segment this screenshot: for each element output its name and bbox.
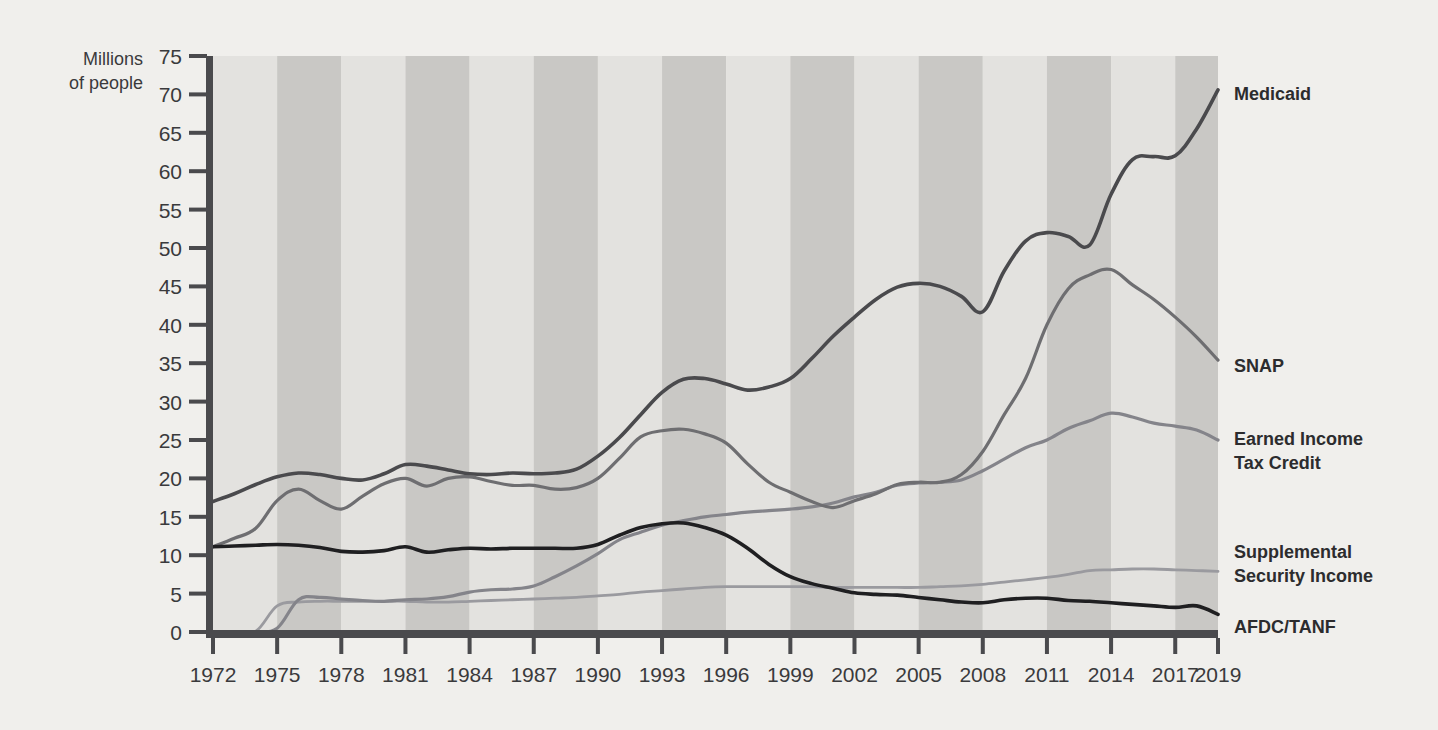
x-tick — [468, 638, 472, 654]
y-tick — [189, 438, 207, 442]
x-tick — [596, 638, 600, 654]
background-band — [405, 56, 469, 632]
y-tick — [189, 92, 207, 96]
x-tick-label: 1987 — [510, 663, 557, 686]
x-tick — [339, 638, 343, 654]
y-tick-label: 70 — [159, 83, 182, 106]
y-tick — [189, 54, 207, 58]
y-tick-label: 35 — [159, 352, 182, 375]
background-band — [790, 56, 854, 632]
y-tick-label: 60 — [159, 160, 182, 183]
y-tick — [189, 169, 207, 173]
y-tick — [189, 553, 207, 557]
x-tick-label: 1999 — [767, 663, 814, 686]
y-tick-label: 30 — [159, 391, 182, 414]
x-tick — [852, 638, 856, 654]
x-tick — [724, 638, 728, 654]
x-tick — [532, 638, 536, 654]
x-tick-label: 1981 — [382, 663, 429, 686]
x-tick-label: 2011 — [1024, 663, 1069, 686]
y-tick-label: 75 — [159, 45, 182, 68]
x-tick-label: 1993 — [639, 663, 686, 686]
y-tick — [189, 476, 207, 480]
background-band — [341, 56, 405, 632]
background-band — [1047, 56, 1111, 632]
y-tick — [189, 284, 207, 288]
x-tick-label: 2008 — [959, 663, 1006, 686]
y-tick — [189, 630, 207, 634]
y-tick-label: 20 — [159, 467, 182, 490]
y-tick — [189, 131, 207, 135]
x-tick — [1216, 638, 1220, 654]
x-tick — [211, 638, 215, 654]
y-axis-title-line2: of people — [69, 73, 143, 93]
x-tick — [275, 638, 279, 654]
y-tick — [189, 323, 207, 327]
series-label-eitc-line2: Tax Credit — [1234, 453, 1321, 473]
series-label-snap: SNAP — [1234, 356, 1284, 376]
background-bands — [213, 56, 1218, 632]
background-band — [983, 56, 1047, 632]
x-tick-label: 2019 — [1195, 663, 1242, 686]
y-tick — [189, 246, 207, 250]
background-band — [1175, 56, 1218, 632]
x-tick — [403, 638, 407, 654]
background-band — [726, 56, 790, 632]
x-tick-label: 1972 — [190, 663, 237, 686]
y-tick-label: 55 — [159, 199, 182, 222]
x-tick-label: 2014 — [1088, 663, 1135, 686]
y-tick-label: 15 — [159, 506, 182, 529]
x-tick-label: 1975 — [254, 663, 301, 686]
background-band — [662, 56, 726, 632]
x-tick-label: 2002 — [831, 663, 878, 686]
x-tick — [788, 638, 792, 654]
y-axis-spine — [206, 56, 213, 636]
y-tick — [189, 400, 207, 404]
x-tick — [660, 638, 664, 654]
chart-container: 051015202530354045505560657075 197219751… — [0, 0, 1438, 730]
background-band — [919, 56, 983, 632]
series-label-afdc-tanf: AFDC/TANF — [1234, 617, 1336, 637]
x-tick-label: 2017 — [1152, 663, 1199, 686]
y-tick — [189, 592, 207, 596]
millions-of-people-line-chart: 051015202530354045505560657075 197219751… — [0, 0, 1438, 730]
y-tick-label: 5 — [170, 583, 182, 606]
y-tick-label: 25 — [159, 429, 182, 452]
y-tick — [189, 361, 207, 365]
x-tick — [1109, 638, 1113, 654]
y-tick-label: 0 — [170, 621, 182, 644]
x-tick — [1173, 638, 1177, 654]
x-tick-label: 1996 — [703, 663, 750, 686]
x-tick-label: 1990 — [575, 663, 622, 686]
x-tick — [917, 638, 921, 654]
x-axis-spine — [206, 630, 1218, 638]
x-tick-label: 1978 — [318, 663, 365, 686]
background-band — [1111, 56, 1175, 632]
x-tick — [1045, 638, 1049, 654]
background-band — [854, 56, 918, 632]
y-tick-label: 65 — [159, 122, 182, 145]
y-tick-label: 45 — [159, 275, 182, 298]
y-tick — [189, 515, 207, 519]
x-tick-label: 2005 — [895, 663, 942, 686]
series-label-eitc-line1: Earned Income — [1234, 429, 1363, 449]
x-tick — [981, 638, 985, 654]
y-tick-label: 10 — [159, 544, 182, 567]
y-tick-label: 40 — [159, 314, 182, 337]
y-tick — [189, 208, 207, 212]
series-label-ssi-line2: Security Income — [1234, 566, 1373, 586]
series-label-ssi-line1: Supplemental — [1234, 542, 1352, 562]
series-label-medicaid: Medicaid — [1234, 84, 1311, 104]
x-tick-label: 1984 — [446, 663, 493, 686]
background-band — [470, 56, 534, 632]
y-tick-label: 50 — [159, 237, 182, 260]
y-axis-title-line1: Millions — [83, 49, 143, 69]
